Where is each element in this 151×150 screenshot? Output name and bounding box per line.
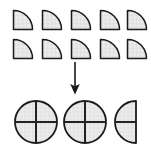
half-circle-icon <box>112 96 140 148</box>
quarter-circle-icon <box>40 8 64 32</box>
quarter-piece <box>69 8 93 32</box>
figure-canvas: Quarter circle pieces combining into who… <box>0 0 151 150</box>
quarter-circle-icon <box>125 37 149 61</box>
quarter-circle-icon <box>98 8 122 32</box>
quarter-piece <box>11 8 35 32</box>
quarter-circle-icon <box>40 37 64 61</box>
quarter-circle-icon <box>11 37 35 61</box>
quarter-circle-icon <box>11 8 35 32</box>
result-half-circle <box>112 96 140 148</box>
quarter-piece <box>125 37 149 61</box>
quarter-piece <box>125 8 149 32</box>
quarter-circle-icon <box>125 8 149 32</box>
quarter-row-1 <box>0 8 151 34</box>
quarter-row-2 <box>0 37 151 63</box>
result-row <box>0 96 151 150</box>
down-arrow-connector <box>62 62 88 95</box>
quarter-piece <box>40 8 64 32</box>
down-arrow-icon <box>62 62 88 95</box>
quarter-piece <box>69 37 93 61</box>
result-whole-circle <box>62 96 108 148</box>
quarter-piece <box>98 8 122 32</box>
result-whole-circle <box>13 96 59 148</box>
quarter-circle-icon <box>98 37 122 61</box>
quarter-piece <box>11 37 35 61</box>
quarter-circle-icon <box>69 8 93 32</box>
quarter-piece <box>98 37 122 61</box>
quarter-piece <box>40 37 64 61</box>
whole-circle-icon <box>13 96 59 148</box>
whole-circle-icon <box>62 96 108 148</box>
quarter-circle-icon <box>69 37 93 61</box>
